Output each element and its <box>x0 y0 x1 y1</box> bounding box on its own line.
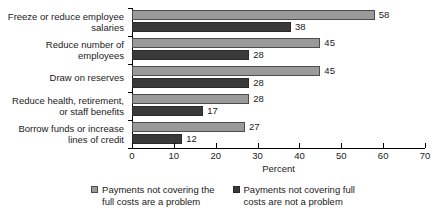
bar-chart: Freeze or reduce employeesalariesReduce … <box>0 0 446 218</box>
category-label: Reduce number ofemployees <box>0 36 124 64</box>
legend-label-line: full costs are a problem <box>102 196 214 208</box>
bar[interactable] <box>132 66 320 76</box>
x-axis-tick <box>383 143 384 148</box>
legend-swatch-icon <box>233 186 240 193</box>
y-axis-tick <box>128 8 132 9</box>
x-axis-tick <box>216 143 217 148</box>
bar-value-label: 45 <box>324 38 335 48</box>
category-label: Draw on reserves <box>0 64 124 92</box>
category-label: Borrow funds or increaselines of credit <box>0 120 124 148</box>
bar-group: 4528 <box>132 36 425 64</box>
bar[interactable] <box>132 10 375 20</box>
x-axis-tick-label: 0 <box>129 150 134 161</box>
category-label-line: salaries <box>0 22 124 34</box>
category-label-line: Freeze or reduce employee <box>0 11 124 23</box>
x-axis-tick <box>132 143 133 148</box>
plot-area: 58384528452828172712 <box>132 8 425 148</box>
chart-legend: Payments not covering thefull costs are … <box>0 184 446 207</box>
y-axis-tick <box>128 36 132 37</box>
bar-value-label: 27 <box>249 122 260 132</box>
x-axis-tick-label: 20 <box>210 150 221 161</box>
category-label-line: Reduce number of <box>0 39 124 51</box>
x-axis-tick <box>341 143 342 148</box>
y-axis-tick <box>128 120 132 121</box>
category-label-line: lines of credit <box>0 134 124 146</box>
legend-item[interactable]: Payments not covering fullcosts are not … <box>233 184 355 207</box>
y-axis-tick <box>128 64 132 65</box>
bar-value-label: 28 <box>253 94 264 104</box>
x-axis-tick-label: 50 <box>336 150 347 161</box>
legend-label: Payments not covering fullcosts are not … <box>244 184 355 207</box>
y-axis-tick <box>128 92 132 93</box>
x-axis-tick <box>425 143 426 148</box>
legend-label: Payments not covering thefull costs are … <box>102 184 214 207</box>
category-label-line: or staff benefits <box>0 106 124 118</box>
x-axis-tick <box>258 143 259 148</box>
bar-value-label: 58 <box>379 10 390 20</box>
bar[interactable] <box>132 22 291 32</box>
bar-group: 5838 <box>132 8 425 36</box>
x-axis-tick-label: 70 <box>420 150 431 161</box>
x-axis-line <box>132 148 425 149</box>
bar[interactable] <box>132 94 249 104</box>
x-axis-tick <box>299 143 300 148</box>
bar-group: 2712 <box>132 120 425 148</box>
bar[interactable] <box>132 38 320 48</box>
legend-label-line: Payments not covering full <box>244 184 355 196</box>
legend-label-line: Payments not covering the <box>102 184 214 196</box>
x-axis-tick-label: 10 <box>169 150 180 161</box>
bar[interactable] <box>132 78 249 88</box>
x-axis-title: Percent <box>132 163 425 174</box>
category-axis-labels: Freeze or reduce employeesalariesReduce … <box>0 8 128 148</box>
category-label-line: employees <box>0 50 124 62</box>
legend-swatch-icon <box>91 186 98 193</box>
category-label-line: Reduce health, retirement, <box>0 95 124 107</box>
category-label-line: Borrow funds or increase <box>0 123 124 135</box>
x-axis-tick-label: 40 <box>294 150 305 161</box>
bar[interactable] <box>132 50 249 60</box>
legend-item[interactable]: Payments not covering thefull costs are … <box>91 184 214 207</box>
bar[interactable] <box>132 106 203 116</box>
y-axis-tick <box>128 148 132 149</box>
category-label-line: Draw on reserves <box>0 72 124 84</box>
category-label: Reduce health, retirement,or staff benef… <box>0 92 124 120</box>
bar-group: 2817 <box>132 92 425 120</box>
legend-label-line: costs are not a problem <box>244 196 355 208</box>
bar[interactable] <box>132 122 245 132</box>
bar-value-label: 28 <box>253 78 264 88</box>
category-label: Freeze or reduce employeesalaries <box>0 8 124 36</box>
bar-value-label: 45 <box>324 66 335 76</box>
x-axis-tick-label: 60 <box>378 150 389 161</box>
x-axis-tick <box>174 143 175 148</box>
bar-value-label: 12 <box>186 134 197 144</box>
bar-value-label: 17 <box>207 106 218 116</box>
bar-value-label: 38 <box>295 22 306 32</box>
x-axis-tick-label: 30 <box>252 150 263 161</box>
bar-group: 4528 <box>132 64 425 92</box>
bar-value-label: 28 <box>253 50 264 60</box>
